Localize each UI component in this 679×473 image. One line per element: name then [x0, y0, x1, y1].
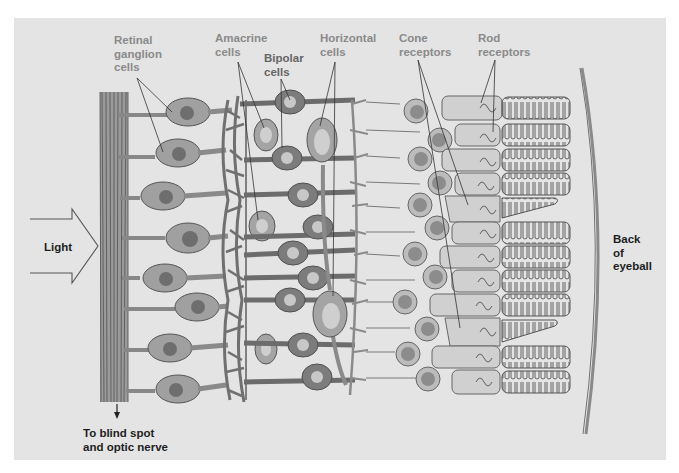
label-blind-spot-optic-nerve: To blind spot and optic nerve [83, 427, 168, 454]
inner-plexiform-layer [223, 96, 246, 402]
label-light: Light [44, 241, 72, 255]
retina-diagram [0, 0, 679, 473]
photoreceptors [393, 96, 570, 394]
label-cone-receptors: Cone receptors [399, 32, 451, 59]
label-horizontal-cells: Horizontal cells [320, 32, 376, 59]
optic-nerve-fibers [100, 92, 128, 419]
label-bipolar-cells: Bipolar cells [264, 52, 304, 79]
label-rod-receptors: Rod receptors [478, 32, 530, 59]
label-retinal-ganglion-cells: Retinal ganglion cells [114, 34, 162, 75]
outer-plexiform-layer [350, 100, 368, 395]
label-amacrine-cells: Amacrine cells [215, 32, 267, 59]
retinal-ganglion-cells [118, 98, 232, 403]
receptor-fibers [366, 102, 420, 378]
label-back-of-eyeball: Back of eyeball [613, 233, 652, 274]
